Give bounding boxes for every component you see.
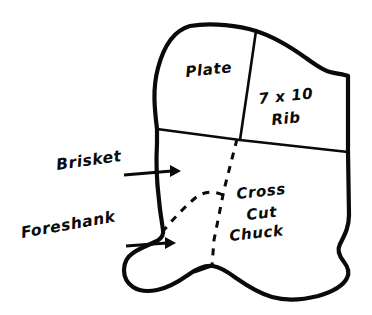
label-chuck-cut: Cut [246,203,279,224]
label-rib: Rib [271,108,302,129]
cut-chart-diagram: Plate 7 x 10 Rib Cross Cut Chuck Brisket… [0,0,372,315]
brisket-callout-arrow [124,165,181,177]
carcass-outline [124,24,349,299]
label-brisket: Brisket [55,147,123,174]
label-foreshank: Foreshank [20,207,118,242]
beef-forequarter-svg: Plate 7 x 10 Rib Cross Cut Chuck Brisket… [0,0,372,315]
